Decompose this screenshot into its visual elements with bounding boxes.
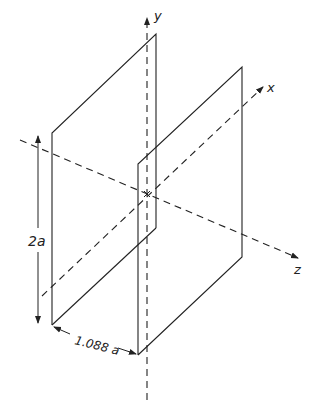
front-plate — [52, 34, 156, 325]
z-axis — [20, 140, 298, 258]
y-axis-label: y — [153, 8, 162, 23]
x-axis-label: x — [266, 80, 275, 95]
back-plate — [138, 67, 242, 355]
separation-label: 1.088 a — [73, 333, 121, 358]
x-axis — [42, 87, 263, 296]
z-axis-label: z — [293, 262, 302, 277]
height-label: 2a — [28, 233, 46, 249]
parallel-plates-diagram: y x z 2a 1.088 a — [0, 0, 318, 416]
